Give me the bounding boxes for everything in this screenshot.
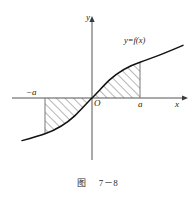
y-axis-label: y: [86, 13, 90, 22]
figure-caption-number: 7－8: [99, 178, 119, 188]
y-axis: [89, 16, 94, 160]
curve-label: y=f(x): [124, 36, 145, 45]
x-axis-label: x: [175, 100, 179, 109]
figure-container: y x O −a a y=f(x) 图 7－8: [0, 0, 195, 201]
origin-label: O: [94, 99, 101, 108]
x-tick-label-pos-a: a: [138, 100, 143, 109]
x-tick-label-neg-a: −a: [26, 88, 37, 97]
figure-caption: 图 7－8: [0, 176, 195, 189]
figure-caption-word: 图: [77, 178, 87, 188]
